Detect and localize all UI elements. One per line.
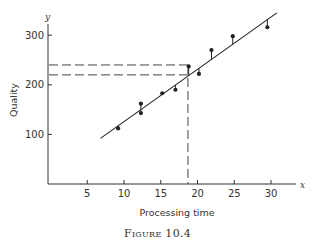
- axes: [48, 24, 296, 184]
- data-points: [116, 25, 269, 130]
- x-tick-label: 30: [265, 188, 278, 199]
- x-tick-label: 10: [118, 188, 131, 199]
- x-tick-label: 20: [191, 188, 204, 199]
- guide-dashed-lines: [49, 65, 188, 184]
- y-tick-label: 100: [25, 129, 44, 140]
- x-axis-title: Processing time: [139, 207, 214, 218]
- y-tick-label: 300: [25, 30, 44, 41]
- x-tick-label: 15: [154, 188, 167, 199]
- x-tick-label: 5: [84, 188, 90, 199]
- data-point: [197, 72, 201, 76]
- data-point: [139, 111, 143, 115]
- data-point: [265, 25, 269, 29]
- y-var-label: y: [44, 12, 51, 22]
- x-tick-label: 25: [228, 188, 241, 199]
- data-point: [231, 34, 235, 38]
- data-point: [187, 64, 191, 68]
- figure-caption: Figure 10.4: [0, 227, 315, 240]
- data-point: [139, 102, 143, 106]
- data-point: [116, 126, 120, 130]
- x-var-label: x: [300, 180, 305, 190]
- y-tick-label: 200: [25, 79, 44, 90]
- data-point: [160, 91, 164, 95]
- scatter-chart: 100200300 51015202530 y x Processing tim…: [0, 0, 315, 246]
- data-point: [209, 48, 213, 52]
- x-ticks: 51015202530: [84, 180, 277, 199]
- data-point: [173, 88, 177, 92]
- y-axis-title: Quality: [8, 83, 19, 117]
